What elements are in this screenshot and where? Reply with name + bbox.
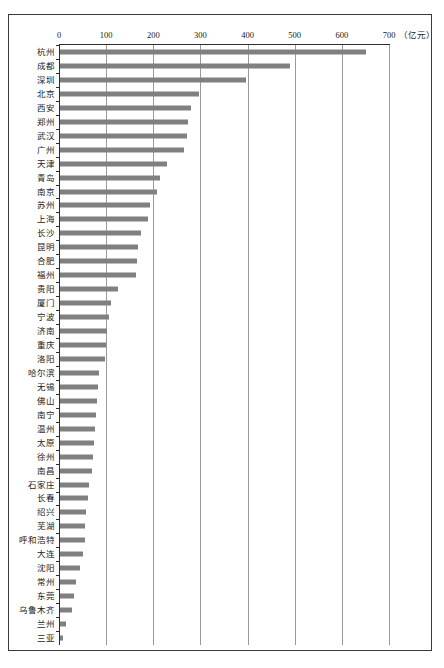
bar xyxy=(60,384,98,389)
bar xyxy=(60,49,366,54)
bar-row: 北京 xyxy=(59,87,389,101)
bar-row: 长春 xyxy=(59,492,389,506)
y-tick-mark xyxy=(56,561,59,562)
y-tick-mark xyxy=(56,505,59,506)
category-label: 武汉 xyxy=(37,131,55,141)
y-tick-mark xyxy=(56,157,59,158)
bar xyxy=(60,636,63,641)
bar-row: 三亚 xyxy=(59,631,389,645)
x-tick-label: 100 xyxy=(100,30,113,40)
category-label: 大连 xyxy=(37,549,55,559)
plot-area: 杭州成都深圳北京西安郑州武汉广州天津青岛南京苏州上海长沙昆明合肥福州贵阳厦门宁波… xyxy=(59,45,389,645)
bar-row: 南宁 xyxy=(59,408,389,422)
category-label: 天津 xyxy=(37,159,55,169)
category-label: 南昌 xyxy=(37,466,55,476)
bar-row: 苏州 xyxy=(59,198,389,212)
bar-row: 乌鲁木齐 xyxy=(59,603,389,617)
category-label: 沈阳 xyxy=(37,563,55,573)
bar xyxy=(60,315,109,320)
category-label: 佛山 xyxy=(37,396,55,406)
y-tick-mark xyxy=(56,212,59,213)
bar-row: 成都 xyxy=(59,59,389,73)
category-label: 常州 xyxy=(37,577,55,587)
bar-row: 洛阳 xyxy=(59,352,389,366)
y-tick-mark xyxy=(56,575,59,576)
category-label: 三亚 xyxy=(37,633,55,643)
bar xyxy=(60,594,74,599)
bar xyxy=(60,468,92,473)
y-tick-mark xyxy=(56,533,59,534)
category-label: 昆明 xyxy=(37,242,55,252)
bar xyxy=(60,259,137,264)
bar-row: 太原 xyxy=(59,436,389,450)
y-tick-mark xyxy=(56,589,59,590)
category-label: 成都 xyxy=(37,61,55,71)
category-label: 福州 xyxy=(37,270,55,280)
x-tick-label: 300 xyxy=(194,30,207,40)
y-tick-mark xyxy=(56,310,59,311)
y-tick-mark xyxy=(56,436,59,437)
bar-row: 温州 xyxy=(59,422,389,436)
bar-row: 呼和浩特 xyxy=(59,533,389,547)
x-tick-label: 600 xyxy=(335,30,348,40)
category-label: 济南 xyxy=(37,326,55,336)
bar xyxy=(60,231,141,236)
bar xyxy=(60,119,188,124)
bar-row: 长沙 xyxy=(59,226,389,240)
x-tick-label: 400 xyxy=(241,30,254,40)
bar xyxy=(60,510,86,515)
bar xyxy=(60,440,94,445)
bar-row: 青岛 xyxy=(59,171,389,185)
category-label: 重庆 xyxy=(37,340,55,350)
bar xyxy=(60,329,107,334)
category-label: 呼和浩特 xyxy=(19,535,55,545)
bar-row: 无锡 xyxy=(59,380,389,394)
y-tick-mark xyxy=(56,338,59,339)
bar xyxy=(60,175,160,180)
category-label: 长春 xyxy=(37,493,55,503)
y-tick-mark xyxy=(56,59,59,60)
category-label: 石家庄 xyxy=(28,480,55,490)
bar-row: 福州 xyxy=(59,268,389,282)
bar xyxy=(60,161,167,166)
y-tick-mark xyxy=(56,226,59,227)
y-tick-mark xyxy=(56,87,59,88)
bar-row: 昆明 xyxy=(59,240,389,254)
y-tick-mark xyxy=(56,73,59,74)
category-label: 绍兴 xyxy=(37,507,55,517)
y-tick-mark xyxy=(56,129,59,130)
y-tick-mark xyxy=(56,268,59,269)
bar xyxy=(60,245,138,250)
bar xyxy=(60,147,184,152)
y-tick-mark xyxy=(56,115,59,116)
bar xyxy=(60,580,76,585)
bar-row: 南昌 xyxy=(59,464,389,478)
y-tick-mark xyxy=(56,324,59,325)
y-tick-mark xyxy=(56,450,59,451)
bar-row: 绍兴 xyxy=(59,505,389,519)
category-label: 厦门 xyxy=(37,298,55,308)
bar-row: 合肥 xyxy=(59,254,389,268)
y-tick-mark xyxy=(56,422,59,423)
category-label: 南宁 xyxy=(37,410,55,420)
bar xyxy=(60,426,95,431)
bar-row: 芜湖 xyxy=(59,519,389,533)
bar-row: 宁波 xyxy=(59,310,389,324)
x-tick-label: 700 xyxy=(383,30,396,40)
bar-row: 佛山 xyxy=(59,394,389,408)
bar-row: 杭州 xyxy=(59,45,389,59)
bar-row: 石家庄 xyxy=(59,478,389,492)
bar-row: 天津 xyxy=(59,157,389,171)
bar-row: 武汉 xyxy=(59,129,389,143)
bar xyxy=(60,287,118,292)
category-label: 温州 xyxy=(37,424,55,434)
category-label: 太原 xyxy=(37,438,55,448)
y-tick-mark xyxy=(56,254,59,255)
bar xyxy=(60,91,199,96)
bar-row: 厦门 xyxy=(59,296,389,310)
bar xyxy=(60,412,96,417)
category-label: 广州 xyxy=(37,145,55,155)
bar-row: 郑州 xyxy=(59,115,389,129)
y-tick-mark xyxy=(56,296,59,297)
y-tick-mark xyxy=(56,282,59,283)
